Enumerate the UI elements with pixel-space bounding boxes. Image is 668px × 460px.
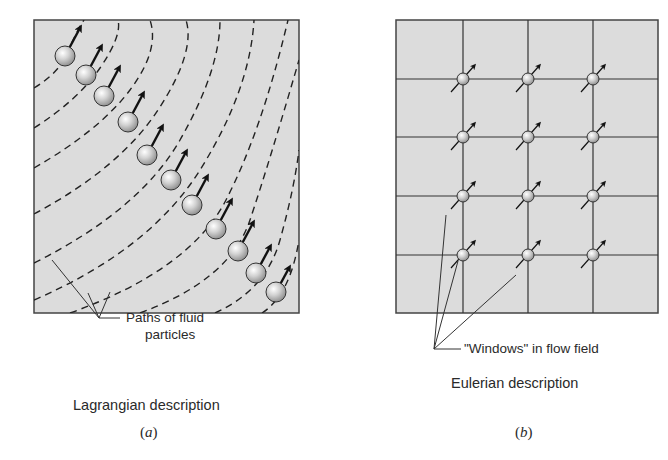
lagrangian-panel — [34, 20, 299, 318]
sublabel-b-letter: b — [520, 424, 528, 440]
lagrangian-caption: Lagrangian description — [73, 397, 220, 413]
lagrangian-annotation-line2: particles — [145, 327, 195, 343]
sublabel-a-letter: a — [145, 424, 153, 440]
figure-canvas — [0, 0, 668, 460]
eulerian-panel — [396, 20, 658, 349]
eulerian-frame — [396, 20, 658, 313]
sublabel-a: (a) — [140, 424, 158, 441]
lagrangian-annotation-line1: Paths of fluid — [126, 310, 204, 326]
sublabel-b: (b) — [515, 424, 533, 441]
eulerian-annotation: "Windows" in flow field — [464, 341, 599, 357]
eulerian-caption: Eulerian description — [451, 375, 578, 391]
